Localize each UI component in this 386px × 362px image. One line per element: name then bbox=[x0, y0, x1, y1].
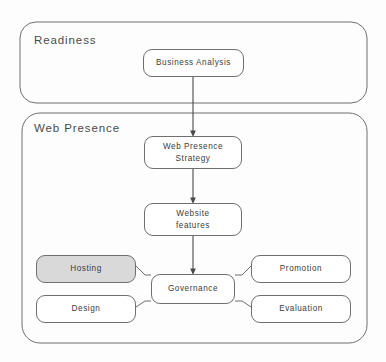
connector-design-to-governance bbox=[136, 301, 151, 307]
node-evaluation[interactable]: Evaluation bbox=[251, 295, 351, 323]
node-design[interactable]: Design bbox=[36, 295, 136, 323]
node-hosting[interactable]: Hosting bbox=[36, 255, 136, 283]
node-website-features-line-2: features bbox=[176, 220, 210, 232]
connector-governance-to-evaluation bbox=[235, 301, 251, 307]
node-design-label: Design bbox=[72, 303, 101, 315]
node-governance-label: Governance bbox=[168, 283, 218, 295]
node-promotion-label: Promotion bbox=[280, 263, 322, 275]
node-hosting-label: Hosting bbox=[70, 263, 102, 275]
node-website-features[interactable]: Website features bbox=[144, 203, 242, 236]
node-business-analysis[interactable]: Business Analysis bbox=[143, 49, 244, 77]
node-web-presence-strategy[interactable]: Web Presence Strategy bbox=[144, 136, 242, 169]
node-website-features-line-1: Website bbox=[176, 208, 209, 220]
diagram-canvas: Readiness Web Presence Business Analysis… bbox=[0, 0, 386, 362]
group-label-readiness: Readiness bbox=[34, 34, 96, 46]
node-web-presence-strategy-line-2: Strategy bbox=[176, 153, 211, 165]
node-web-presence-strategy-line-1: Web Presence bbox=[163, 141, 223, 153]
node-promotion[interactable]: Promotion bbox=[251, 255, 351, 283]
node-governance[interactable]: Governance bbox=[151, 274, 235, 304]
node-evaluation-label: Evaluation bbox=[279, 303, 323, 315]
group-label-web-presence: Web Presence bbox=[34, 122, 120, 134]
connector-governance-to-promotion bbox=[235, 266, 251, 275]
connector-hosting-to-governance bbox=[136, 266, 151, 275]
node-business-analysis-line-1: Business Analysis bbox=[156, 57, 231, 69]
